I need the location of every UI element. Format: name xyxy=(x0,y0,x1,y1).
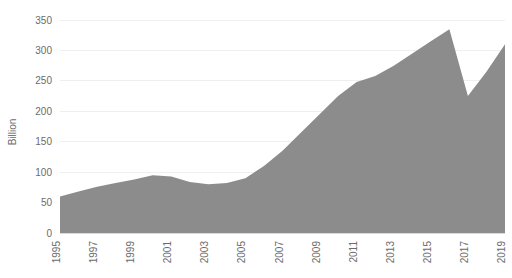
y-tick-label: 0 xyxy=(46,228,52,239)
x-tick-label: 2019 xyxy=(496,241,507,264)
y-tick-label: 350 xyxy=(35,15,52,26)
x-tick-label: 1995 xyxy=(51,241,62,264)
x-tick-label: 1999 xyxy=(125,241,136,264)
x-tick-label: 2001 xyxy=(162,241,173,264)
x-tick-label: 2017 xyxy=(459,241,470,264)
x-tick-label: 1997 xyxy=(88,241,99,264)
y-tick-label: 100 xyxy=(35,167,52,178)
x-tick-label: 2003 xyxy=(199,241,210,264)
area-chart: 050100150200250300350 199519971999200120… xyxy=(0,0,512,278)
y-tick-label: 50 xyxy=(41,197,53,208)
x-tick-label: 2011 xyxy=(348,241,359,263)
y-tick-label: 250 xyxy=(35,75,52,86)
y-tick-label: 300 xyxy=(35,45,52,56)
chart-canvas: 050100150200250300350 199519971999200120… xyxy=(0,0,512,278)
y-axis-title: Billion xyxy=(7,119,18,146)
y-tick-label: 150 xyxy=(35,136,52,147)
y-tick-label: 200 xyxy=(35,106,52,117)
x-tick-label: 2015 xyxy=(422,241,433,264)
x-tick-label: 2007 xyxy=(274,241,285,264)
x-tick-label: 2009 xyxy=(311,241,322,264)
x-tick-label: 2013 xyxy=(385,241,396,264)
x-tick-label: 2005 xyxy=(236,241,247,264)
y-axis-title-label: Billion xyxy=(7,119,18,146)
